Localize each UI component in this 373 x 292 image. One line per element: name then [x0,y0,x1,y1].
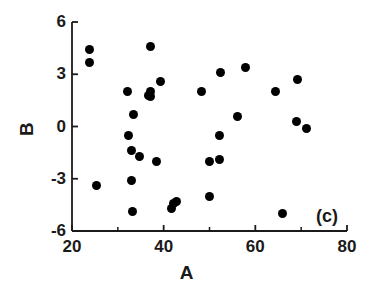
y-tick-label: 6 [26,12,66,32]
data-point [293,75,302,84]
data-point [156,77,165,86]
data-point [302,124,311,133]
data-point [124,131,133,140]
data-point [128,207,137,216]
scatter-plot-figure: (c) A B 20406080630-3-6 [0,0,373,292]
data-point [85,58,94,67]
data-point [241,63,250,72]
data-point [215,131,224,140]
data-point [129,110,138,119]
panel-label: (c) [316,206,338,227]
data-point [127,176,136,185]
data-point [271,87,280,96]
data-point [146,42,155,51]
x-tick-label: 60 [230,237,280,257]
data-point [152,157,161,166]
y-tick-label: 0 [26,117,66,137]
data-point [292,117,301,126]
data-point [233,112,242,121]
y-tick-label: 3 [26,64,66,84]
data-point [215,155,224,164]
x-tick-label: 80 [322,237,372,257]
x-tick-label: 40 [139,237,189,257]
data-point [278,209,287,218]
y-tick-label: -3 [26,169,66,189]
y-tick-label: -6 [26,221,66,241]
data-point [216,68,225,77]
data-point [135,152,144,161]
data-point [172,197,181,206]
x-axis-title: A [0,262,373,284]
data-point [205,157,214,166]
